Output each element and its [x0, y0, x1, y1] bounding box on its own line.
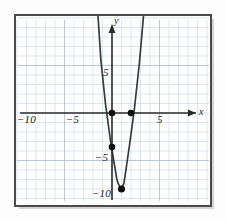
- point-root-2: [128, 110, 135, 117]
- point-origin: [109, 110, 116, 117]
- graph-figure: −10 −5 5 5 −5 −10 x y: [0, 0, 226, 220]
- graph-svg: [0, 0, 226, 220]
- x-tick-label-neg10: −10: [17, 114, 36, 125]
- axis-lines: [20, 26, 196, 200]
- x-tick-label-neg5: −5: [66, 114, 79, 125]
- y-tick-label-pos5: 5: [103, 67, 109, 78]
- x-axis-name-label: x: [199, 107, 204, 117]
- x-axis-arrow: [188, 110, 196, 117]
- point-vertex: [118, 185, 125, 192]
- x-tick-label-pos5: 5: [157, 114, 163, 125]
- y-tick-label-neg10: −10: [92, 188, 111, 199]
- y-axis-name-label: y: [114, 16, 119, 26]
- grid-lines: [17, 18, 209, 201]
- y-tick-label-neg5: −5: [95, 152, 108, 163]
- coordinate-plane: −10 −5 5 5 −5 −10 x y: [0, 0, 226, 220]
- point-y-intercept: [109, 144, 116, 151]
